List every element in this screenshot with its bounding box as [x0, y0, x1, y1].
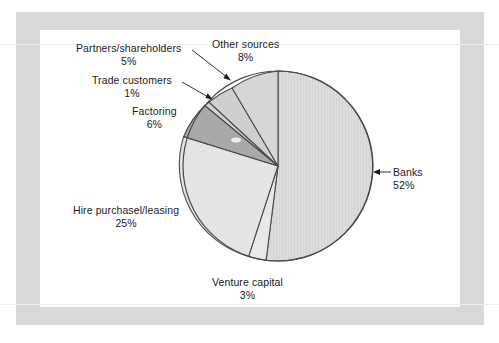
pie-label-factoring-value: 6%: [132, 118, 177, 131]
pie-label-trade-customers-value: 1%: [92, 87, 172, 100]
leader-line-trade-customers: [182, 82, 213, 100]
pie-label-venture-capital-name: Venture capital: [212, 276, 283, 288]
pie-label-trade-customers-name: Trade customers: [92, 74, 172, 86]
leader-line-banks: [373, 169, 391, 175]
pie-label-venture-capital: Venture capital 3%: [212, 276, 283, 302]
pie-label-partners-shareholders-name: Partners/shareholders: [76, 42, 181, 54]
pie-label-other-sources-value: 8%: [212, 51, 279, 64]
pie-label-factoring: Factoring 6%: [132, 105, 177, 131]
pie-label-hire-purchase-leasing-name: Hire purchasel/leasing: [73, 204, 179, 216]
pie-label-factoring-name: Factoring: [132, 105, 177, 117]
pie-chart: Partners/shareholders 5% Trade customers…: [0, 0, 499, 343]
pie-label-other-sources: Other sources 8%: [212, 38, 279, 64]
pie-label-venture-capital-value: 3%: [212, 289, 283, 302]
scan-speck-artifact: [231, 137, 241, 142]
pie-label-banks-value: 52%: [393, 179, 423, 192]
pie-label-banks: Banks 52%: [393, 166, 423, 192]
chart-page: Partners/shareholders 5% Trade customers…: [0, 0, 499, 343]
pie-label-other-sources-name: Other sources: [212, 38, 279, 50]
pie-label-hire-purchase-leasing-value: 25%: [73, 217, 179, 230]
pie-label-hire-purchase-leasing: Hire purchasel/leasing 25%: [73, 204, 179, 230]
pie-label-partners-shareholders: Partners/shareholders 5%: [76, 42, 181, 68]
pie-slice-banks[interactable]: [266, 71, 373, 261]
pie-label-banks-name: Banks: [393, 166, 423, 178]
pie-label-partners-shareholders-value: 5%: [76, 55, 181, 68]
pie-label-trade-customers: Trade customers 1%: [92, 74, 172, 100]
